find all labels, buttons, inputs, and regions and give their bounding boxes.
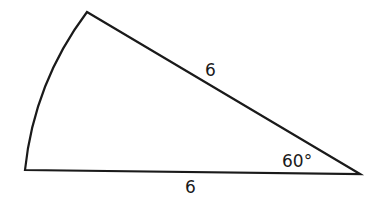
sector-outline	[25, 12, 360, 174]
upper-radius-label: 6	[205, 60, 216, 80]
angle-label: 60°	[282, 151, 312, 171]
sector-diagram: 6 6 60°	[0, 0, 383, 206]
lower-radius-label: 6	[185, 177, 196, 197]
sector-figure: 6 6 60°	[0, 0, 383, 206]
